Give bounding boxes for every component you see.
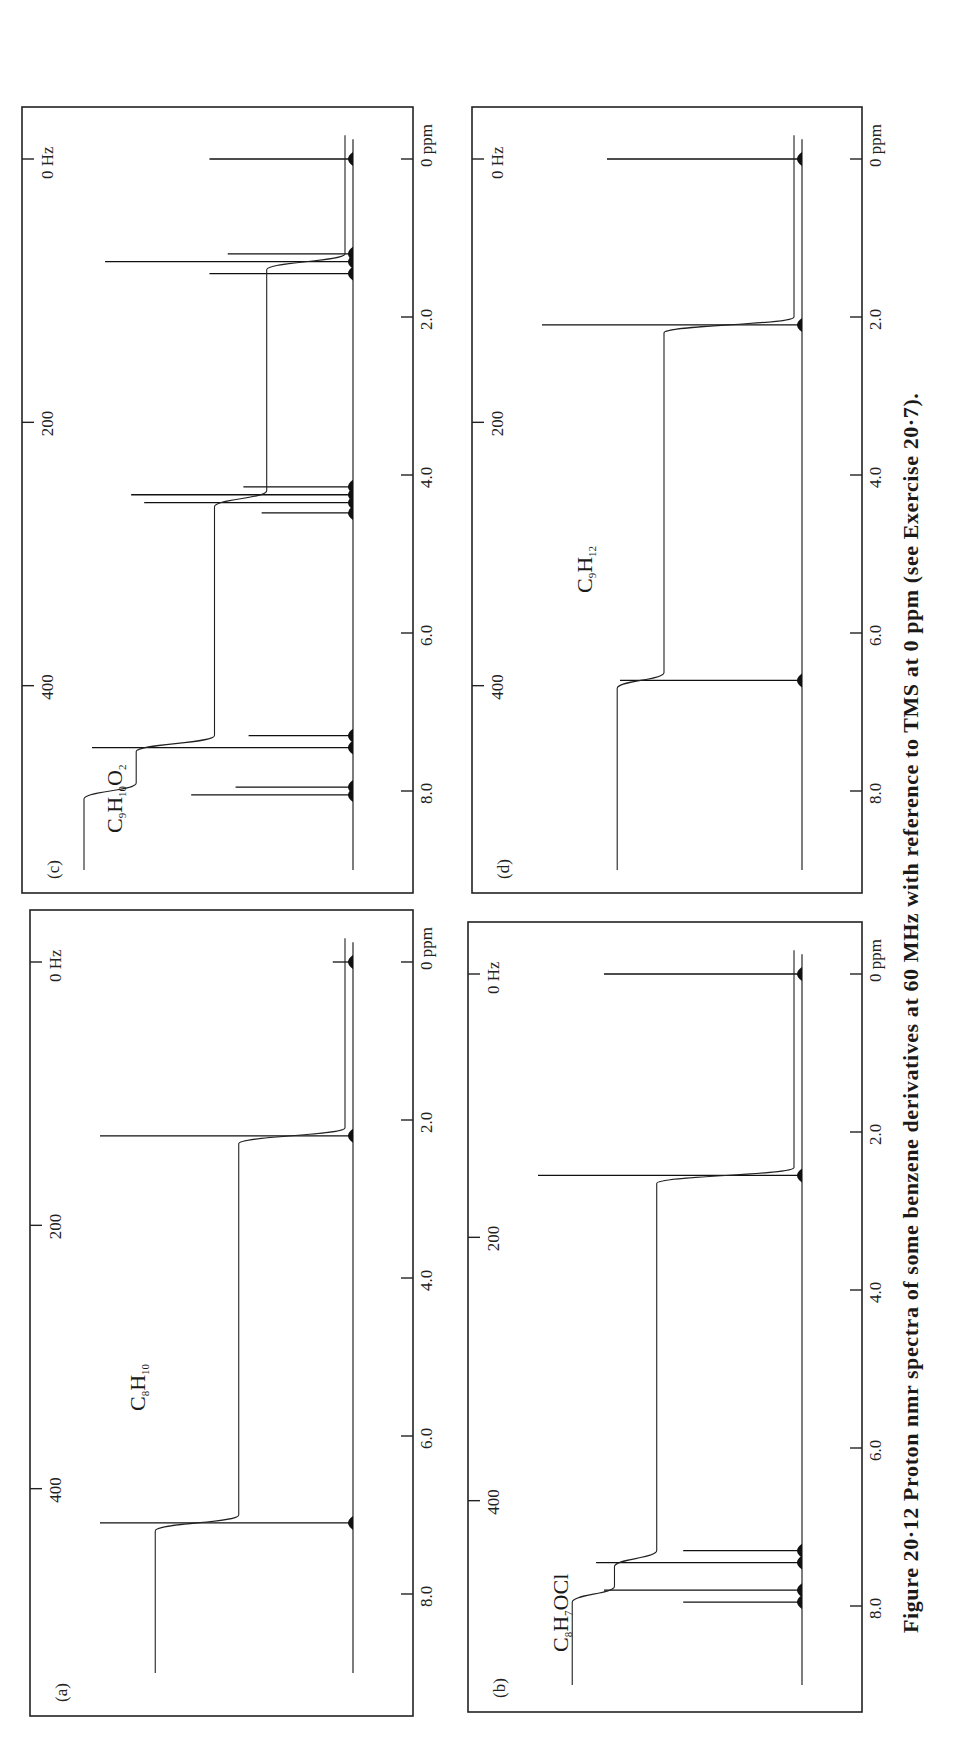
hz-label-400: 400 <box>488 674 508 700</box>
hz-label-400: 400 <box>38 674 58 700</box>
ppm-label-2: 4.0 <box>417 1270 437 1291</box>
molecular-formula: C9H12 <box>572 546 598 593</box>
peak-multiplet <box>797 967 802 981</box>
hz-label-0: 0 Hz <box>38 146 58 179</box>
peak-multiplet <box>348 729 353 743</box>
spectrum-plot <box>468 922 862 1712</box>
spectrum-panel-b: 0 Hz2004000 ppm2.04.06.08.0(b)C8H7OCl <box>468 922 862 1712</box>
peak-multiplet <box>348 152 353 166</box>
panel-frame <box>30 910 413 1716</box>
hz-label-0: 0 Hz <box>46 949 66 982</box>
ppm-label-2: 4.0 <box>866 1282 886 1303</box>
ppm-label-3: 6.0 <box>417 625 437 646</box>
ppm-label-1: 2.0 <box>417 1112 437 1133</box>
hz-label-0: 0 Hz <box>488 146 508 179</box>
peak-multiplet <box>348 955 353 969</box>
hz-label-200: 200 <box>488 411 508 437</box>
peak-multiplet <box>348 1516 353 1530</box>
peak-multiplet <box>348 1129 353 1143</box>
peak-multiplet <box>348 506 353 520</box>
peak-multiplet <box>797 1556 802 1570</box>
ppm-label-0: 0 ppm <box>417 124 437 167</box>
hz-label-400: 400 <box>484 1489 504 1515</box>
panel-frame <box>22 107 413 893</box>
ppm-label-0: 0 ppm <box>866 124 886 167</box>
spectrum-plot <box>30 910 413 1716</box>
peak-multiplet <box>797 1168 802 1182</box>
ppm-label-3: 6.0 <box>866 625 886 646</box>
peak-multiplet <box>797 1595 802 1609</box>
ppm-label-3: 6.0 <box>866 1440 886 1461</box>
hz-label-400: 400 <box>46 1477 66 1503</box>
panel-letter-label: (b) <box>490 1678 510 1698</box>
panel-letter-label: (a) <box>52 1683 72 1702</box>
panel-letter-label: (d) <box>494 859 514 879</box>
molecular-formula: C9H10O2 <box>102 765 128 833</box>
peak-multiplet <box>348 788 353 802</box>
ppm-label-1: 2.0 <box>417 309 437 330</box>
ppm-label-4: 8.0 <box>866 783 886 804</box>
peak-multiplet <box>797 152 802 166</box>
figure-stage: 0 Hz2004000 ppm2.04.06.08.0(a)C8H10 0 Hz… <box>0 0 972 1754</box>
integral-curve <box>572 950 794 1685</box>
peak-multiplet <box>797 318 802 332</box>
peak-multiplet <box>797 1583 802 1597</box>
ppm-label-4: 8.0 <box>417 783 437 804</box>
spectrum-panel-a: 0 Hz2004000 ppm2.04.06.08.0(a)C8H10 <box>30 910 413 1716</box>
ppm-label-0: 0 ppm <box>866 939 886 982</box>
figure-caption: Figure 20·12 Proton nmr spectra of some … <box>898 393 924 1633</box>
panel-letter-label: (c) <box>44 860 64 879</box>
spectrum-plot <box>22 107 413 893</box>
ppm-label-4: 8.0 <box>417 1586 437 1607</box>
ppm-label-1: 2.0 <box>866 1124 886 1145</box>
spectrum-plot <box>472 107 862 893</box>
peak-multiplet <box>348 267 353 281</box>
ppm-label-1: 2.0 <box>866 309 886 330</box>
spectrum-panel-c: 0 Hz2004000 ppm2.04.06.08.0(c)C9H10O2 <box>22 107 413 893</box>
ppm-label-0: 0 ppm <box>417 927 437 970</box>
hz-label-200: 200 <box>38 411 58 437</box>
peak-multiplet <box>348 255 353 269</box>
integral-curve <box>155 938 345 1673</box>
integral-curve <box>617 135 794 870</box>
ppm-label-3: 6.0 <box>417 1428 437 1449</box>
panel-frame <box>468 922 862 1712</box>
panel-frame <box>472 107 862 893</box>
hz-label-200: 200 <box>46 1214 66 1240</box>
hz-label-0: 0 Hz <box>484 961 504 994</box>
ppm-label-4: 8.0 <box>866 1598 886 1619</box>
ppm-label-2: 4.0 <box>866 467 886 488</box>
peak-multiplet <box>797 673 802 687</box>
hz-label-200: 200 <box>484 1226 504 1252</box>
peak-multiplet <box>797 1544 802 1558</box>
molecular-formula: C8H10 <box>125 1364 151 1411</box>
molecular-formula: C8H7OCl <box>548 1574 574 1652</box>
spectrum-panel-d: 0 Hz2004000 ppm2.04.06.08.0(d)C9H12 <box>472 107 862 893</box>
ppm-label-2: 4.0 <box>417 467 437 488</box>
peak-multiplet <box>348 741 353 755</box>
